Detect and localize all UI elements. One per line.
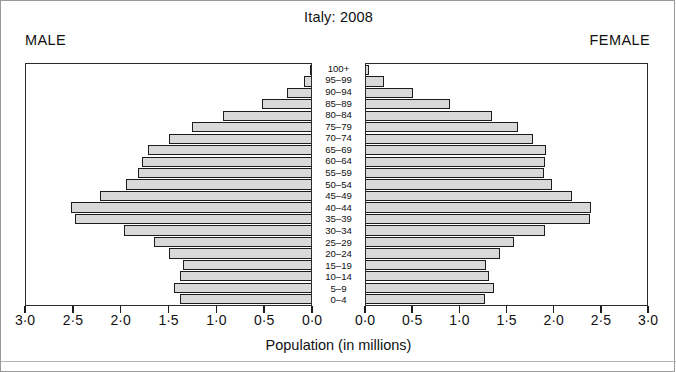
female-bar-rows: [366, 64, 647, 305]
age-group-labels: 0–45–910–1415–1920–2425–2930–3435–3940–4…: [312, 63, 365, 306]
female-plot-panel: [365, 63, 648, 306]
female-bar-70-74: [366, 134, 533, 144]
axis-ticklabel: 2·5: [591, 312, 611, 328]
female-axis-ticklabels: 0·00·51·01·52·02·53·0: [365, 312, 648, 330]
bar-row: [26, 202, 311, 213]
age-label-5-9: 5–9: [312, 283, 365, 295]
male-bar-95-99: [304, 76, 311, 86]
axis-ticklabel: 1·0: [206, 312, 226, 328]
bar-row: [366, 144, 647, 155]
bar-row: [26, 87, 311, 98]
age-label-50-54: 50–54: [312, 179, 365, 191]
female-bar-10-14: [366, 271, 489, 281]
age-label-30-34: 30–34: [312, 225, 365, 237]
age-label-25-29: 25–29: [312, 237, 365, 249]
bar-row: [366, 282, 647, 293]
age-label-85-89: 85–89: [312, 98, 365, 110]
female-bar-55-59: [366, 168, 544, 178]
male-bar-100+: [310, 65, 311, 75]
female-side-label: FEMALE: [590, 32, 650, 48]
axis-ticklabel: 3·0: [638, 312, 658, 328]
bar-row: [366, 76, 647, 87]
bar-row: [366, 271, 647, 282]
age-label-95-99: 95–99: [312, 74, 365, 86]
male-bar-rows: [26, 64, 311, 305]
bar-row: [366, 213, 647, 224]
footer-rule: [1, 361, 676, 362]
male-plot-panel: [25, 63, 312, 306]
male-side-label: MALE: [25, 32, 66, 48]
x-axis-title: Population (in millions): [1, 337, 676, 353]
bar-row: [366, 202, 647, 213]
bar-row: [366, 110, 647, 121]
male-bar-15-19: [183, 260, 311, 270]
bar-row: [26, 144, 311, 155]
male-bar-5-9: [174, 283, 311, 293]
male-bar-30-34: [124, 225, 311, 235]
male-bar-55-59: [138, 168, 311, 178]
female-bar-85-89: [366, 99, 450, 109]
age-label-10-14: 10–14: [312, 271, 365, 283]
female-bar-80-84: [366, 111, 492, 121]
female-bar-75-79: [366, 122, 518, 132]
female-bar-40-44: [366, 202, 591, 212]
bar-row: [26, 99, 311, 110]
bar-row: [366, 64, 647, 75]
female-bar-60-64: [366, 157, 545, 167]
axis-ticklabel: 1·0: [449, 312, 469, 328]
male-bar-90-94: [287, 88, 311, 98]
female-bar-30-34: [366, 225, 545, 235]
male-bar-45-49: [100, 191, 311, 201]
axis-ticklabel: 3·0: [15, 312, 35, 328]
male-bar-65-69: [148, 145, 311, 155]
age-label-20-24: 20–24: [312, 248, 365, 260]
female-bar-0-4: [366, 294, 485, 304]
axis-ticklabel: 0·5: [254, 312, 274, 328]
axis-ticklabel: 1·5: [158, 312, 178, 328]
age-label-0-4: 0–4: [312, 294, 365, 306]
bar-row: [366, 122, 647, 133]
age-label-60-64: 60–64: [312, 155, 365, 167]
bar-row: [366, 259, 647, 270]
female-bar-95-99: [366, 76, 384, 86]
bar-row: [26, 282, 311, 293]
bar-row: [366, 190, 647, 201]
bar-row: [366, 87, 647, 98]
chart-title: Italy: 2008: [1, 9, 676, 25]
male-bar-25-29: [154, 237, 311, 247]
bar-row: [366, 99, 647, 110]
bar-row: [26, 167, 311, 178]
axis-ticklabel: 2·0: [544, 312, 564, 328]
bar-row: [366, 236, 647, 247]
age-label-45-49: 45–49: [312, 190, 365, 202]
bar-row: [26, 236, 311, 247]
age-label-40-44: 40–44: [312, 202, 365, 214]
male-bar-0-4: [180, 294, 311, 304]
bar-row: [366, 133, 647, 144]
age-label-55-59: 55–59: [312, 167, 365, 179]
female-bar-25-29: [366, 237, 514, 247]
axis-ticklabel: 2·5: [63, 312, 83, 328]
age-label-15-19: 15–19: [312, 260, 365, 272]
bar-row: [366, 156, 647, 167]
age-label-65-69: 65–69: [312, 144, 365, 156]
male-bar-85-89: [262, 99, 311, 109]
axis-ticklabel: 0·5: [402, 312, 422, 328]
female-bar-50-54: [366, 179, 552, 189]
female-bar-100+: [366, 65, 369, 75]
axis-ticklabel: 2·0: [111, 312, 131, 328]
male-bar-80-84: [223, 111, 311, 121]
age-label-100+: 100+: [312, 63, 365, 75]
male-bar-35-39: [75, 214, 311, 224]
male-bar-75-79: [192, 122, 311, 132]
bar-row: [26, 133, 311, 144]
bar-row: [26, 122, 311, 133]
female-bar-45-49: [366, 191, 572, 201]
female-bar-5-9: [366, 283, 494, 293]
bar-row: [26, 213, 311, 224]
bar-row: [26, 179, 311, 190]
age-label-35-39: 35–39: [312, 213, 365, 225]
female-bar-65-69: [366, 145, 546, 155]
age-label-80-84: 80–84: [312, 109, 365, 121]
